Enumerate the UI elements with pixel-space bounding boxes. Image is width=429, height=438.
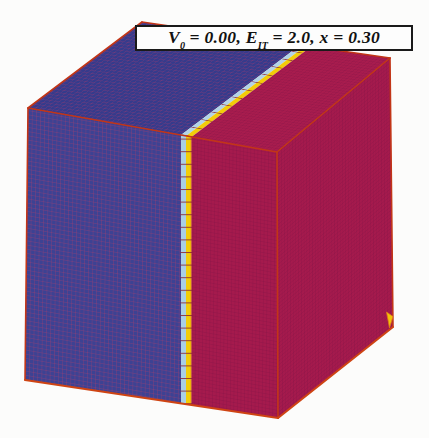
front-face-red-region	[192, 137, 279, 418]
cube-canvas	[0, 0, 429, 438]
title-parameter-v: V	[168, 27, 180, 47]
edge-vertical-front	[277, 152, 278, 418]
figure-3d-cube-plot: V0 = 0.00, EIT = 2.0, x = 0.30	[0, 0, 429, 438]
title-subscript-it: IT	[258, 40, 268, 51]
front-interface-tick-marks	[181, 135, 193, 405]
cube-faces	[25, 22, 393, 418]
title-subscript-0: 0	[180, 40, 185, 51]
title-box: V0 = 0.00, EIT = 2.0, x = 0.30	[135, 25, 413, 51]
title-value-v: = 0.00,	[185, 27, 246, 47]
title-value-x: = 0.30	[329, 27, 380, 47]
front-face-blue-region	[25, 108, 181, 403]
title-value-e: = 2.0,	[268, 27, 320, 47]
title-parameter-e: E	[246, 27, 258, 47]
title-parameter-x: x	[320, 27, 329, 47]
